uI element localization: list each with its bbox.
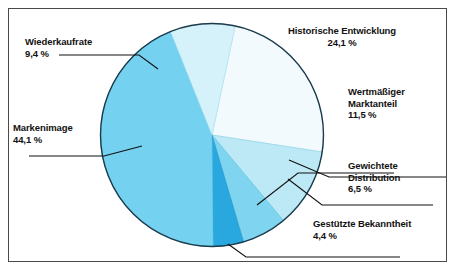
slice-label-gewichtete-distribution: Gewichtete Distribution 6,5 % — [348, 160, 400, 195]
slice-label-name-line2: Marktanteil — [348, 98, 405, 110]
slice-label-name-line1: Wertmäßiger — [348, 86, 405, 97]
slice-label-name: Historische Entwicklung — [288, 25, 396, 36]
slice-label-name-line2: Distribution — [348, 172, 400, 184]
slice-label-percent: 11,5 % — [348, 109, 405, 121]
slice-label-markenimage: Markenimage 44,1 % — [13, 122, 73, 145]
slice-label-percent: 4,4 % — [313, 230, 411, 242]
slice-label-wertmaessiger-marktanteil: Wertmäßiger Marktanteil 11,5 % — [348, 86, 405, 121]
pie-slices — [101, 24, 324, 247]
slice-label-gestuetzte-bekanntheit: Gestützte Bekanntheit 4,4 % — [313, 218, 411, 241]
slice-label-name: Gestützte Bekanntheit — [313, 218, 411, 229]
slice-label-percent: 24,1 % — [288, 37, 396, 49]
pie-chart-figure: Historische Entwicklung 24,1 % Wertmäßig… — [0, 0, 455, 273]
slice-label-name: Wiederkaufrate — [25, 36, 92, 47]
slice-label-percent: 6,5 % — [348, 183, 400, 195]
slice-label-wiederkaufrate: Wiederkaufrate 9,4 % — [25, 36, 92, 59]
slice-label-percent: 44,1 % — [13, 134, 73, 146]
slice-label-percent: 9,4 % — [25, 48, 92, 60]
slice-label-historische-entwicklung: Historische Entwicklung 24,1 % — [288, 25, 396, 48]
slice-label-name-line1: Gewichtete — [348, 160, 398, 171]
leader-line-gestuetzte-bekanntheit — [228, 244, 400, 257]
slice-label-name: Markenimage — [13, 122, 73, 133]
